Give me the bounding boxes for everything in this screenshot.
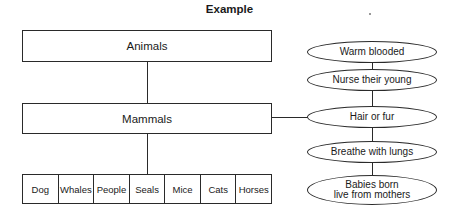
example-cell-whales: Whales [59, 175, 95, 203]
example-cell-cats: Cats [201, 175, 237, 203]
ellipse-connector-2 [372, 90, 373, 107]
example-label: Cats [208, 184, 228, 195]
example-cell-seals: Seals [130, 175, 166, 203]
mammals-box: Mammals [22, 103, 272, 134]
speck-mark [369, 13, 371, 15]
ellipse-connector-3 [372, 127, 373, 142]
diagram-title-text: Example [206, 3, 253, 15]
characteristic-label: Breathe with lungs [331, 147, 413, 157]
example-label: Mice [173, 184, 193, 195]
example-cell-dog: Dog [23, 175, 59, 203]
characteristic-hair-fur: Hair or fur [307, 106, 437, 128]
mammals-examples-connector [147, 134, 148, 174]
mammals-label: Mammals [122, 113, 172, 125]
animals-box: Animals [22, 30, 272, 62]
characteristic-label: Hair or fur [350, 112, 394, 122]
characteristic-label-line2: live from mothers [334, 190, 411, 200]
characteristic-label: Warm blooded [340, 47, 405, 57]
ellipse-connector-4 [372, 162, 373, 176]
characteristic-live-birth: Babies born live from mothers [307, 175, 437, 205]
example-label: Dog [32, 184, 49, 195]
example-label: Seals [135, 184, 159, 195]
example-label: People [97, 184, 127, 195]
characteristic-breathe-lungs: Breathe with lungs [307, 141, 437, 163]
characteristic-warm-blooded: Warm blooded [307, 41, 437, 63]
characteristic-nurse-young: Nurse their young [307, 69, 437, 91]
example-label: Horses [239, 184, 269, 195]
animals-label: Animals [127, 40, 168, 52]
mammals-characteristics-connector [272, 117, 308, 118]
characteristic-label: Nurse their young [333, 75, 412, 85]
example-cell-horses: Horses [236, 175, 271, 203]
examples-row: Dog Whales People Seals Mice Cats Horses [22, 174, 272, 204]
example-cell-mice: Mice [165, 175, 201, 203]
example-cell-people: People [94, 175, 130, 203]
animals-mammals-connector [147, 62, 148, 103]
diagram-title: Example [0, 3, 457, 15]
example-label: Whales [60, 184, 92, 195]
